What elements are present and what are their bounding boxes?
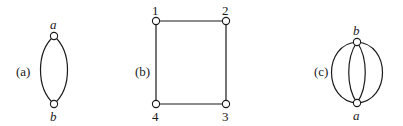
node-label-3: 3 (222, 109, 229, 124)
edge-a-b-left (41, 36, 55, 104)
caption-a: (a) (16, 64, 30, 79)
figure-c: (c) b a (314, 23, 383, 123)
edge-a-b-right (54, 36, 68, 104)
node-label-1: 1 (152, 3, 159, 18)
node-label-b: b (353, 23, 360, 38)
edge-b-a-outer-left (332, 42, 358, 103)
node-label-2: 2 (222, 3, 229, 18)
node-label-4: 4 (152, 109, 159, 124)
node-a (50, 32, 57, 39)
edge-b-a-inner-right (357, 42, 365, 103)
node-a (353, 99, 360, 106)
node-2 (222, 17, 229, 24)
node-4 (152, 100, 159, 107)
caption-c: (c) (314, 64, 328, 79)
node-1 (152, 17, 159, 24)
node-label-a: a (353, 108, 360, 123)
edge-b-a-inner-left (349, 42, 357, 103)
caption-b: (b) (135, 64, 150, 79)
edge-b-a-outer-right (357, 42, 383, 103)
node-b (353, 38, 360, 45)
node-3 (222, 100, 229, 107)
figure-a: (a) a b (16, 17, 68, 124)
graph-figures: (a) a b (b) 1 2 3 4 (c) b a (0, 0, 403, 126)
node-label-b: b (50, 109, 57, 124)
node-b (50, 100, 57, 107)
node-label-a: a (50, 17, 57, 32)
figure-b: (b) 1 2 3 4 (135, 3, 230, 124)
